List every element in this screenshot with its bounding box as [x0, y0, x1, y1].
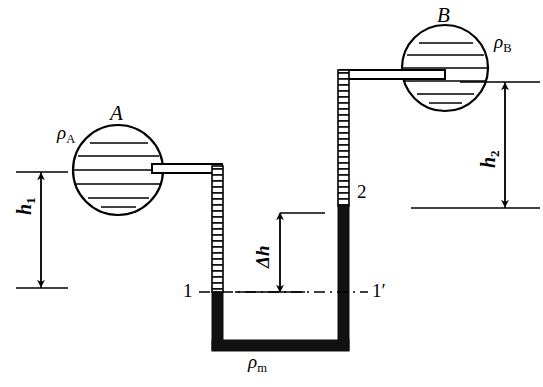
left-limb-empty	[212, 166, 223, 292]
right-limb-empty	[338, 70, 349, 206]
h1-label: h1	[14, 197, 37, 215]
h1-dimension	[16, 172, 68, 288]
manometer-diagram-svg	[0, 0, 543, 387]
rho-m-subscript: m	[257, 361, 267, 375]
h1-subscript: 1	[23, 197, 38, 204]
pipe-b-horizontal	[340, 70, 445, 79]
rho-b-subscript: B	[503, 41, 511, 55]
h1-symbol: h	[13, 204, 35, 215]
rho-m-symbol: ρ	[248, 351, 257, 372]
pipe-b-to-right-tube	[340, 70, 445, 79]
diagram-canvas: A ρA B ρB ρm 1 1′ 2 h1 h2 Δh	[0, 0, 543, 387]
right-limb-mercury	[338, 206, 349, 350]
point-1-prime-label: 1′	[372, 281, 386, 300]
delta-h-label: Δh	[253, 246, 272, 268]
point-1-label: 1	[183, 281, 193, 300]
rho-b-symbol: ρ	[494, 31, 503, 52]
rho-a-subscript: A	[66, 132, 75, 146]
vessel-b-density-label: ρB	[494, 32, 511, 54]
delta-h-dimension	[280, 213, 325, 292]
rho-a-symbol: ρ	[57, 122, 66, 143]
vessel-b-label: B	[437, 5, 450, 26]
vessel-a-label: A	[110, 103, 123, 124]
vessel-a-density-label: ρA	[57, 123, 75, 145]
h2-label: h2	[478, 150, 501, 168]
h2-symbol: h	[477, 157, 499, 168]
vessel-b-group	[402, 25, 488, 111]
u-bottom-mercury	[212, 340, 349, 351]
vessel-a-group	[73, 125, 163, 215]
point-2-label: 2	[357, 182, 367, 201]
h2-subscript: 2	[487, 150, 502, 157]
manometer-fluid-density-label: ρm	[248, 352, 267, 374]
